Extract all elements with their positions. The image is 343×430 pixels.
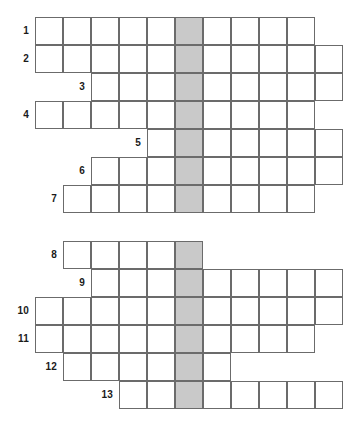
crossword-cell[interactable]	[119, 269, 147, 297]
crossword-cell[interactable]	[287, 73, 315, 101]
crossword-cell[interactable]	[259, 185, 287, 213]
crossword-cell[interactable]	[35, 297, 63, 325]
crossword-cell-shaded[interactable]	[175, 73, 203, 101]
crossword-cell[interactable]	[231, 325, 259, 353]
crossword-cell-shaded[interactable]	[175, 325, 203, 353]
crossword-cell-shaded[interactable]	[175, 381, 203, 409]
crossword-cell[interactable]	[315, 381, 343, 409]
crossword-cell[interactable]	[147, 101, 175, 129]
crossword-cell[interactable]	[119, 157, 147, 185]
crossword-cell-shaded[interactable]	[175, 45, 203, 73]
crossword-cell[interactable]	[147, 17, 175, 45]
crossword-cell[interactable]	[147, 157, 175, 185]
crossword-cell[interactable]	[315, 297, 343, 325]
crossword-cell[interactable]	[119, 241, 147, 269]
crossword-cell[interactable]	[259, 157, 287, 185]
crossword-cell[interactable]	[259, 101, 287, 129]
crossword-cell[interactable]	[259, 17, 287, 45]
crossword-cell-shaded[interactable]	[175, 129, 203, 157]
crossword-cell[interactable]	[259, 269, 287, 297]
crossword-cell[interactable]	[63, 17, 91, 45]
crossword-cell[interactable]	[315, 269, 343, 297]
crossword-cell[interactable]	[91, 297, 119, 325]
crossword-cell[interactable]	[91, 241, 119, 269]
crossword-cell[interactable]	[231, 17, 259, 45]
crossword-cell[interactable]	[231, 45, 259, 73]
crossword-cell[interactable]	[147, 241, 175, 269]
crossword-cell[interactable]	[231, 381, 259, 409]
crossword-cell[interactable]	[63, 325, 91, 353]
crossword-cell[interactable]	[315, 157, 343, 185]
crossword-cell[interactable]	[203, 73, 231, 101]
crossword-cell[interactable]	[287, 185, 315, 213]
crossword-cell[interactable]	[203, 381, 231, 409]
crossword-cell[interactable]	[119, 45, 147, 73]
crossword-cell[interactable]	[203, 325, 231, 353]
crossword-cell-shaded[interactable]	[175, 157, 203, 185]
crossword-cell[interactable]	[147, 185, 175, 213]
crossword-cell[interactable]	[91, 73, 119, 101]
crossword-cell[interactable]	[119, 381, 147, 409]
crossword-cell[interactable]	[231, 73, 259, 101]
crossword-cell[interactable]	[203, 353, 231, 381]
crossword-cell[interactable]	[91, 353, 119, 381]
crossword-cell[interactable]	[35, 101, 63, 129]
crossword-cell[interactable]	[203, 157, 231, 185]
crossword-cell[interactable]	[259, 297, 287, 325]
crossword-cell[interactable]	[63, 297, 91, 325]
crossword-cell[interactable]	[287, 325, 315, 353]
crossword-cell[interactable]	[287, 381, 315, 409]
crossword-cell[interactable]	[119, 353, 147, 381]
crossword-cell[interactable]	[147, 45, 175, 73]
crossword-cell[interactable]	[231, 129, 259, 157]
crossword-cell[interactable]	[287, 17, 315, 45]
crossword-cell[interactable]	[91, 185, 119, 213]
crossword-cell[interactable]	[259, 381, 287, 409]
crossword-cell[interactable]	[287, 129, 315, 157]
crossword-cell-shaded[interactable]	[175, 297, 203, 325]
crossword-cell[interactable]	[91, 325, 119, 353]
crossword-cell[interactable]	[91, 269, 119, 297]
crossword-cell[interactable]	[147, 381, 175, 409]
crossword-cell[interactable]	[119, 325, 147, 353]
crossword-cell[interactable]	[63, 45, 91, 73]
crossword-cell-shaded[interactable]	[175, 241, 203, 269]
crossword-cell[interactable]	[287, 45, 315, 73]
crossword-cell[interactable]	[147, 129, 175, 157]
crossword-cell[interactable]	[119, 185, 147, 213]
crossword-cell[interactable]	[287, 269, 315, 297]
crossword-cell[interactable]	[259, 129, 287, 157]
crossword-cell[interactable]	[147, 269, 175, 297]
crossword-cell[interactable]	[315, 45, 343, 73]
crossword-cell[interactable]	[119, 297, 147, 325]
crossword-cell[interactable]	[91, 101, 119, 129]
crossword-cell[interactable]	[63, 353, 91, 381]
crossword-cell[interactable]	[91, 45, 119, 73]
crossword-cell[interactable]	[203, 17, 231, 45]
crossword-cell[interactable]	[259, 325, 287, 353]
crossword-cell[interactable]	[63, 101, 91, 129]
crossword-cell[interactable]	[231, 101, 259, 129]
crossword-cell[interactable]	[315, 73, 343, 101]
crossword-cell-shaded[interactable]	[175, 101, 203, 129]
crossword-cell[interactable]	[119, 101, 147, 129]
crossword-cell[interactable]	[91, 17, 119, 45]
crossword-cell[interactable]	[203, 269, 231, 297]
crossword-cell[interactable]	[231, 269, 259, 297]
crossword-cell[interactable]	[63, 241, 91, 269]
crossword-cell[interactable]	[147, 297, 175, 325]
crossword-cell[interactable]	[203, 185, 231, 213]
crossword-cell[interactable]	[231, 297, 259, 325]
crossword-cell[interactable]	[231, 185, 259, 213]
crossword-cell[interactable]	[259, 45, 287, 73]
crossword-cell[interactable]	[287, 297, 315, 325]
crossword-cell[interactable]	[147, 73, 175, 101]
crossword-cell[interactable]	[147, 325, 175, 353]
crossword-cell[interactable]	[287, 101, 315, 129]
crossword-cell[interactable]	[203, 101, 231, 129]
crossword-cell[interactable]	[35, 17, 63, 45]
crossword-cell[interactable]	[231, 157, 259, 185]
crossword-cell-shaded[interactable]	[175, 185, 203, 213]
crossword-cell[interactable]	[119, 73, 147, 101]
crossword-cell-shaded[interactable]	[175, 17, 203, 45]
